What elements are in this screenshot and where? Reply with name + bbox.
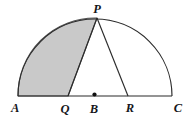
vertex-label-a: A <box>10 101 19 115</box>
center-point-dot-b <box>92 92 96 96</box>
vertex-label-q: Q <box>60 102 69 116</box>
vertex-label-p: P <box>93 2 101 16</box>
vertex-label-b: B <box>89 102 98 116</box>
geometry-diagram-svg: P A Q B R C <box>0 0 194 121</box>
vertex-label-r: R <box>125 101 134 115</box>
vertex-label-c: C <box>174 101 183 115</box>
geometry-figure-container: P A Q B R C <box>0 0 194 121</box>
